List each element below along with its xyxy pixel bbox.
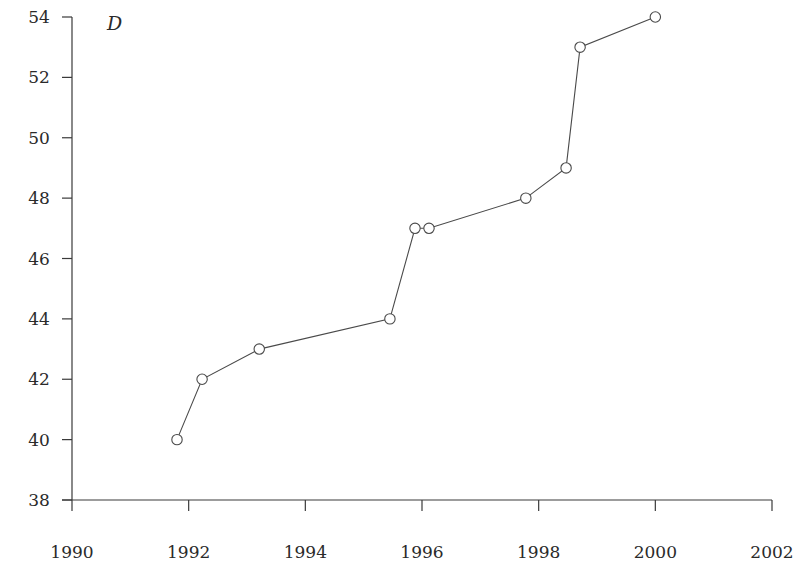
- chart: 3840424446485052541990199219941996199820…: [0, 0, 797, 588]
- data-series: [172, 12, 661, 445]
- y-tick-label: 50: [28, 128, 50, 148]
- y-tick-label: 42: [28, 369, 50, 389]
- y-tick-label: 54: [28, 7, 50, 27]
- y-tick-label: 38: [28, 490, 50, 510]
- x-tick-label: 2002: [750, 542, 793, 562]
- x-tick-label: 1992: [167, 542, 210, 562]
- data-point-marker: [575, 42, 585, 52]
- data-point-marker: [172, 434, 182, 444]
- y-tick-label: 40: [28, 430, 50, 450]
- y-tick-label: 52: [28, 67, 50, 87]
- x-tick-label: 1998: [517, 542, 560, 562]
- data-point-marker: [410, 223, 420, 233]
- y-tick-label: 48: [28, 188, 50, 208]
- data-point-marker: [561, 163, 571, 173]
- data-point-marker: [254, 344, 264, 354]
- data-point-marker: [650, 12, 660, 22]
- data-point-marker: [385, 314, 395, 324]
- data-point-marker: [424, 223, 434, 233]
- data-point-marker: [521, 193, 531, 203]
- x-tick-label: 1990: [50, 542, 93, 562]
- x-tick-label: 2000: [634, 542, 677, 562]
- panel-label: D: [106, 12, 122, 34]
- x-tick-label: 1996: [400, 542, 443, 562]
- data-point-marker: [197, 374, 207, 384]
- y-tick-label: 44: [28, 309, 50, 329]
- y-tick-label: 46: [28, 249, 50, 269]
- axes: 3840424446485052541990199219941996199820…: [28, 7, 793, 562]
- x-tick-label: 1994: [284, 542, 327, 562]
